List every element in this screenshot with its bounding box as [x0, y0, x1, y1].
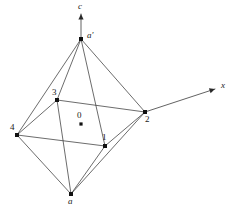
vertex-4-label: 4: [10, 123, 15, 132]
edge-3-a: [57, 100, 71, 194]
vertex-a-prime-dot: [79, 37, 83, 41]
axis-x-arrowhead: [209, 88, 215, 93]
vertex-3-dot: [55, 98, 59, 102]
edge-1-a: [71, 146, 105, 194]
axis-c-arrowhead: [78, 14, 83, 20]
vertex-2-label: 2: [145, 115, 150, 124]
crystal-axes-figure: cxa'3241a0: [0, 0, 232, 211]
vertex-1-label: 1: [102, 133, 107, 142]
vertex-3-label: 3: [52, 88, 57, 97]
diagram-canvas: [0, 0, 232, 211]
edge-aprime-2: [81, 39, 145, 112]
vertex-a-prime-label: a': [87, 31, 93, 40]
edge-3-2: [57, 100, 145, 112]
edge-1-2: [105, 112, 145, 146]
vertex-1-dot: [103, 144, 107, 148]
origin-0-label: 0: [77, 111, 82, 120]
axes-group: [78, 14, 215, 112]
axis-x-line: [145, 89, 215, 112]
axis-x-label: x: [221, 81, 225, 90]
edge-aprime-4: [17, 39, 81, 135]
axis-c-label: c: [78, 2, 82, 11]
vertex-a-label: a: [68, 197, 73, 206]
edge-4-a: [17, 135, 71, 194]
edge-4-1: [17, 135, 105, 146]
edge-aprime-1: [81, 39, 105, 146]
origin-0-dot: [79, 122, 82, 125]
origin-group: [79, 122, 82, 125]
vertex-4-dot: [15, 133, 19, 137]
